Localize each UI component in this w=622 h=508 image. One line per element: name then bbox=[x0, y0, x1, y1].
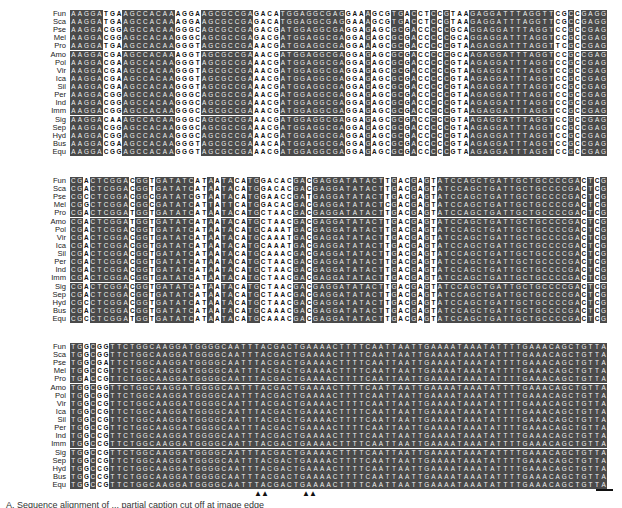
alignment-row: PseTGGCGATTCTGGCAAGGATGGGGCAATTTACGACTGA… bbox=[0, 359, 622, 367]
species-label: Equ bbox=[28, 315, 66, 323]
sequence: TGGCCGTTCTGGCAAGGATGGGGCAATTTACGACTGAAAA… bbox=[70, 400, 607, 408]
sequence: CGACTCGGACGGTGATATCATAATACATGGACACGACGAG… bbox=[70, 177, 607, 185]
alignment-row: VirCGACTCGGACGGTGATATCATAATACATGCAAATGAC… bbox=[0, 234, 622, 242]
sequence: CGACTCGGACGGTGATATCATAATACATGCAAATGACGAG… bbox=[70, 242, 607, 250]
sequence: CGGCTCGGACGGCGATATCATTATTCATGGACACGACGAG… bbox=[70, 201, 607, 209]
arrowhead-marker-1: ▲▲ bbox=[254, 489, 268, 498]
alignment-row: ProTGACCGTTCTGGCAAGGATGGGGCAATTTACGACTGA… bbox=[0, 375, 622, 383]
sequence: CGACTCGGACGGTGATATCATAATACATGCAAATGACGAG… bbox=[70, 234, 607, 242]
sequence: AAGGACGGAGCCACAAGGGTAGCGCCGAAACGATGGAGGC… bbox=[70, 148, 607, 156]
alignment-row: MelTGGCCGTTCTGGCAAGGATGGGGCAATTTACGACTGA… bbox=[0, 367, 622, 375]
alignment-row: HydCGCCTCGGACGGTGATATCATAATACATGCTAACGAC… bbox=[0, 299, 622, 307]
sequence: TGGCCGTTCTGGCAAGGATGGGGCAATTTACGACTGAAAA… bbox=[70, 481, 607, 489]
alignment-row: BusCGACTCGGACGGTGATATCATAATACATGCAAACGAC… bbox=[0, 307, 622, 315]
alignment-row: PerTGGCCGTTCTGGCAAGGATGGGGCAATTTACGACTGA… bbox=[0, 424, 622, 432]
alignment-row: SigAAGGACAAAGCCACAAGGGCAGCGCCGAAACGATGGA… bbox=[0, 116, 622, 124]
sequence: TGGCGGTTCTGGCAAGGATGGGGCAATTTACGACTGAAAA… bbox=[70, 351, 607, 359]
sequence: CGCCTCGGACGGCGATATCGTAATACATGGAACCGATGAG… bbox=[70, 193, 607, 201]
sequence: CGACTCGGATGGTGATATCATAATACATGCTAACGACGAG… bbox=[70, 209, 607, 217]
sequence: AAGGACGAAGCCACAAGGGTAGCGCCGAAACAATGGAGGC… bbox=[70, 140, 607, 148]
sequence: TGGCCGTTCTGGCAAGGATGGGGCAATTTACGACTGAAAA… bbox=[70, 416, 607, 424]
alignment-row: EquAAGGACGGAGCCACAAGGGTAGCGCCGAAACGATGGA… bbox=[0, 148, 622, 156]
alignment-row: BusTGGCCGTTCTGGCAAGGATGGGGCAATTTACGACTGA… bbox=[0, 473, 622, 481]
alignment-row: PseCGCCTCGGACGGCGATATCGTAATACATGGAACCGAT… bbox=[0, 193, 622, 201]
alignment-row: VirAAGGACGAAGCCACAAGGGTAGCGCCGAAACGATGGA… bbox=[0, 67, 622, 75]
sequence: AAGGACGGAGCCACAAGGGCAGCGCCGAAACGATGGAGGC… bbox=[70, 91, 607, 99]
alignment-row: ScaCGACTCGGACGGTGATATCATAATACATGGACACGAC… bbox=[0, 185, 622, 193]
alignment-row: FunTGGCGGTTCTGGCAAGGATGGGGCAATTTACGACTGA… bbox=[0, 343, 622, 351]
sequence: TGGCGATTCTGGCAAGGATGGGGCAATTTACGACTGAAAA… bbox=[70, 359, 607, 367]
alignment-row: IndCGACTCGGACGGTGATATCATAATACATGCTAACGAC… bbox=[0, 266, 622, 274]
sequence: AAGGACGAAGCCACAAGGGTAGCGCCGAAACGATGGAGGC… bbox=[70, 75, 607, 83]
alignment-row: FunCGACTCGGACGGTGATATCATAATACATGGACACGAC… bbox=[0, 177, 622, 185]
sequence: AAGGACGGAGCCACAAGGGCAGCGCCGAAACGATGGAGGC… bbox=[70, 107, 607, 115]
alignment-row: ImmTGGCCGTTCTGGCAAGGATGGGGCAATTTACGACTGA… bbox=[0, 440, 622, 448]
alignment-row: PolAAGGACGAAGCCACAAGGGTAGCGCCGAAACGATGGA… bbox=[0, 59, 622, 67]
alignment-row: BusAAGGACGAAGCCACAAGGGTAGCGCCGAAACAATGGA… bbox=[0, 140, 622, 148]
sequence: TGGCGGTTCTGGCAAGGATGGGGCAATTTACGACTGAAAA… bbox=[70, 392, 607, 400]
sequence: AAGGACGGAGCCACAAGGGCAGCGCCGAAACGATGGAGGC… bbox=[70, 132, 607, 140]
sequence: CGACTCGGATGGTGATATCATAATACATGCTAACGACGAG… bbox=[70, 218, 607, 226]
alignment-row: AmoTGGCGGTTCTGGCAAGGATGGGGCAATTTACGACTGA… bbox=[0, 384, 622, 392]
alignment-row: ScaTGGCGGTTCTGGCAAGGATGGGGCAATTTACGACTGA… bbox=[0, 351, 622, 359]
alignment-row: IndTGGCCGTTCTGGCAAGGATGGGGCAATTTACGACTGA… bbox=[0, 432, 622, 440]
sequence: AAGGATGAAGCCACAAAGGAAGCGCCGAGACATGGAGGCG… bbox=[70, 10, 607, 18]
alignment-row: ProCGACTCGGATGGTGATATCATAATACATGCTAACGAC… bbox=[0, 209, 622, 217]
alignment-row: MelCGGCTCGGACGGCGATATCATTATTCATGGACACGAC… bbox=[0, 201, 622, 209]
sequence: AAGGATGAAGCCACAAGGGTAGCGCCGAAACGATGGAGGC… bbox=[70, 42, 607, 50]
alignment-row: IcaCGACTCGGACGGTGATATCATAATACATGCAAATGAC… bbox=[0, 242, 622, 250]
alignment-row: ImmAAGGACGGAGCCACAAGGGCAGCGCCGAAACGATGGA… bbox=[0, 107, 622, 115]
sequence: AAGGATGAAGCCACAAAGGAAGCGCCGAGACATGGAGGCG… bbox=[70, 18, 607, 26]
alignment-row: SepCGACTCGGACGGTGATATCATAATACATGCTAACGAC… bbox=[0, 291, 622, 299]
alignment-row: PerAAGGACGGAGCCACAAGGGCAGCGCCGAAACGATGGA… bbox=[0, 91, 622, 99]
sequence: TGGCCGTTCTGGCAAGGATGGGGCAATTTACGACTGAAAA… bbox=[70, 457, 607, 465]
sequence: TGGCCGTTCTGGCAAGGATGGGGCAATTTACGACTGAAAA… bbox=[70, 440, 607, 448]
sequence: TGGCCGTTCTGGCAAGGATGGGGCAATTTACGACTGAAAA… bbox=[70, 449, 607, 457]
sequence: CGCCTCGGACGGTGATATCATAATACATGCTAACGACGAG… bbox=[70, 299, 607, 307]
alignment-row: IndAAGGACGGAGCCACAAGGGCAGCGCCGAAACGATGGA… bbox=[0, 99, 622, 107]
species-label: Equ bbox=[28, 148, 66, 156]
sequence: AAGGACGGAGCCACAAGGGCAGCGCCGAAACGATGGAGGC… bbox=[70, 99, 607, 107]
alignment-row: VirTGGCCGTTCTGGCAAGGATGGGGCAATTTACGACTGA… bbox=[0, 400, 622, 408]
sequence: AAGGACGGAGCCACAAGGGCAGCGCCGAGACGATGGAGGC… bbox=[70, 26, 607, 34]
alignment-row: SigCGACTCGGACGGTGATATCATAATACATGCTAACGAC… bbox=[0, 283, 622, 291]
sequence: TGGCCGTTCTGGCAAGGATGGGGCAATTTACGACTGAAAA… bbox=[70, 408, 607, 416]
sequence: CGCCTCGGATGGTGATATCATAATACATGCAAACGACGAG… bbox=[70, 315, 607, 323]
alignment-row: SigTGGCCGTTCTGGCAAGGATGGGGCAATTTACGACTGA… bbox=[0, 449, 622, 457]
alignment-row: PerCGACTCGGACGGTGATATCATAATACATGCTAACGAC… bbox=[0, 258, 622, 266]
alignment-row: ImmCGACTCGGACGGTGATATCATAATACATGCTAACGAC… bbox=[0, 274, 622, 282]
alignment-row: SepAAGGACGGAGCCACAAGGGCAGCGCCGAAACGATGGA… bbox=[0, 124, 622, 132]
sequence: CGACTCGGACGGTGATATCATAATACATGCAAACGACGAG… bbox=[70, 307, 607, 315]
sequence: CGACTCGGACGGTGATATCATAATACATGCTAACGACGAG… bbox=[70, 283, 607, 291]
figure-caption: A. Sequence alignment of ... partial cap… bbox=[6, 500, 264, 508]
alignment-row: EquCGCCTCGGATGGTGATATCATAATACATGCAAACGAC… bbox=[0, 315, 622, 323]
sequence: TGGCCGTTCTGGCAAGGATGGGGCAATTTACGACTGAAAA… bbox=[70, 465, 607, 473]
alignment-row: AmoAAGGACGAAGCCACAAAGGTAGCGCCGAAACGATGGA… bbox=[0, 51, 622, 59]
sequence: TGGCGGTTCTGGCAAGGATGGGGCAATTTACGACTGAAAA… bbox=[70, 384, 607, 392]
sequence: TGGCCGTTCTGGCAAGGATGGGGCAATTTACGACTGAAAA… bbox=[70, 473, 607, 481]
alignment-row: SilAAGGACGAAGCCACAAGGGTAGCGCCGAAACGATGGA… bbox=[0, 83, 622, 91]
alignment-row: SilTGGCCGTTCTGGCAAGGATGGGGCAATTTACGACTGA… bbox=[0, 416, 622, 424]
sequence: CGACTCGGACGGTGATATCATAATACATGCAAACGACGAG… bbox=[70, 250, 607, 258]
arrowhead-marker-2: ▲▲ bbox=[302, 489, 316, 498]
sequence: CGACTCGGACGGTGATATCATAATACATGCTAACGACGAG… bbox=[70, 291, 607, 299]
sequence: AAGGACGAAGCCACAAGGGTAGCGCCGAAACGATGGAGGC… bbox=[70, 67, 607, 75]
alignment-row: AmoCGACTCGGATGGTGATATCATAATACATGCTAACGAC… bbox=[0, 218, 622, 226]
alignment-row: IcaTGGCCGTTCTGGCAAGGATGGGGCAATTTACGACTGA… bbox=[0, 408, 622, 416]
alignment-row: ProAAGGATGAAGCCACAAGGGTAGCGCCGAAACGATGGA… bbox=[0, 42, 622, 50]
sequence: AAGGACAAAGCCACAAGGGCAGCGCCGAAACGATGGAGGC… bbox=[70, 116, 607, 124]
sequence: CGACTCGGACGGTGATATCATAATACATGGACACGACGAG… bbox=[70, 185, 607, 193]
sequence: AAGGACGAAGCCACAAAGGTAGCGCCGAAACGATGGAGGC… bbox=[70, 51, 607, 59]
species-label: Equ bbox=[28, 481, 66, 489]
alignment-row: PolTGGCGGTTCTGGCAAGGATGGGGCAATTTACGACTGA… bbox=[0, 392, 622, 400]
alignment-row: MelAAGGACGGAGCCACAAGGGCAGCGCCGAGACGATGGA… bbox=[0, 34, 622, 42]
alignment-row: HydAAGGACGGAGCCACAAGGGCAGCGCCGAAACGATGGA… bbox=[0, 132, 622, 140]
scale-bar bbox=[596, 489, 613, 491]
sequence: CGACTCGGACGGTGATATCATAATACATGCTAACGACGAG… bbox=[70, 274, 607, 282]
sequence: TGACCGTTCTGGCAAGGATGGGGCAATTTACGACTGAAAA… bbox=[70, 375, 607, 383]
sequence: TGGCGGTTCTGGCAAGGATGGGGCAATTTACGACTGAAAA… bbox=[70, 343, 607, 351]
sequence: CGACTCGGACGGTGATATCATAATACATGCTAACGACGAG… bbox=[70, 258, 607, 266]
sequence: TGGCCGTTCTGGCAAGGATGGGGCAATTTACGACTGAAAA… bbox=[70, 432, 607, 440]
sequence: AAGGACGGAGCCACAAGGGCAGCGCCGAAACGATGGAGGC… bbox=[70, 124, 607, 132]
sequence: TGGCCGTTCTGGCAAGGATGGGGCAATTTACGACTGAAAA… bbox=[70, 424, 607, 432]
